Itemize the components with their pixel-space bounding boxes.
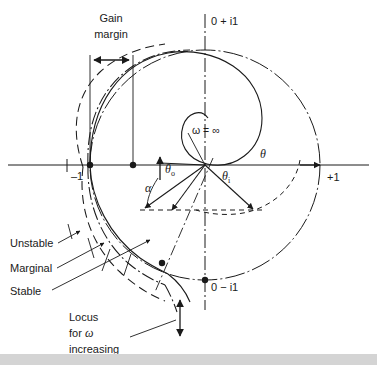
locus-label-line2: for ω: [69, 326, 93, 340]
unstable-label: Unstable: [10, 237, 53, 249]
theta-o-label: θo: [165, 162, 175, 178]
theta-label: θ: [260, 147, 266, 161]
imag-negative-label: 0 − i1: [211, 281, 238, 293]
alpha-second-vector: [172, 165, 205, 210]
locus-callout-leader: [130, 320, 176, 337]
footer-band: [0, 354, 377, 365]
nyquist-diagram-canvas: Gain margin 0 + i1 0 − i1 –1 +1 ω = ∞ θ …: [0, 0, 377, 365]
theta-i-subscript: i: [228, 176, 231, 185]
stable-label: Stable: [10, 285, 41, 297]
dashed-return-arc: [196, 160, 300, 214]
locus-label-for: for: [69, 327, 85, 339]
gain-margin-label-line2: margin: [94, 28, 128, 40]
leader-tick-1: [88, 238, 94, 258]
real-negative-one-label: –1: [71, 170, 83, 182]
alpha-vector: [145, 165, 205, 208]
nyquist-diagram-figure: Gain margin 0 + i1 0 − i1 –1 +1 ω = ∞ θ …: [0, 0, 377, 365]
imag-positive-label: 0 + i1: [211, 15, 238, 27]
theta-i-label: θi: [222, 169, 231, 185]
stable-leader-line: [52, 240, 150, 290]
unstable-leader-line: [58, 231, 80, 243]
point-locus-crossing-dot: [159, 260, 165, 266]
origin-guide-dashdot: [155, 158, 213, 292]
omega-infinity-label: ω = ∞: [192, 124, 220, 136]
alpha-label: α: [145, 181, 152, 195]
locus-direction-arrows-group: [130, 300, 180, 337]
stable-locus-curve: [90, 52, 262, 274]
locus-lower-tails: [165, 274, 190, 312]
radial-vectors-group: [145, 133, 253, 292]
point-minus-i1-dot: [202, 277, 208, 283]
locus-label-line1: Locus: [69, 311, 99, 323]
gain-margin-label-line1: Gain: [99, 12, 122, 24]
marginal-locus-curve: [88, 50, 190, 285]
gain-margin-bracket-group: [90, 55, 133, 165]
theta-i-vector: [205, 165, 253, 209]
theta-o-subscript: o: [171, 169, 175, 178]
marginal-label: Marginal: [10, 262, 52, 274]
marginal-leader-line: [57, 243, 104, 268]
locus-label-omega: ω: [85, 326, 93, 340]
real-positive-one-label: +1: [327, 171, 340, 183]
